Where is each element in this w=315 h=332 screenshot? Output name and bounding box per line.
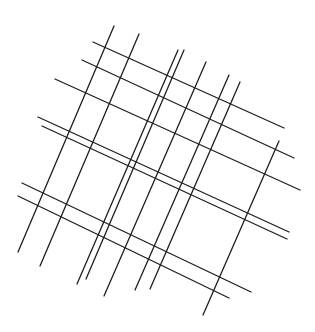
steep-line-0 <box>18 26 114 252</box>
steep-line-6 <box>150 82 240 289</box>
shallow-line-2 <box>55 79 300 190</box>
steep-lines <box>18 26 279 315</box>
steep-line-4 <box>104 62 206 296</box>
shallow-line-3 <box>38 117 289 232</box>
shallow-line-0 <box>93 42 284 128</box>
shallow-line-1 <box>82 60 294 158</box>
line-grid-drawing <box>0 0 315 332</box>
shallow-line-6 <box>18 196 229 298</box>
steep-line-7 <box>203 141 279 315</box>
